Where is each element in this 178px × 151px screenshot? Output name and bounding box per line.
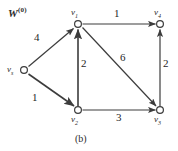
node-label-v2: v2 xyxy=(71,115,78,126)
edge-weight-v1-v3: 6 xyxy=(120,52,126,63)
node-label-v1-subscript: 1 xyxy=(75,13,78,19)
node-label-v3: v3 xyxy=(154,115,161,126)
node-label-v3-subscript: 3 xyxy=(158,120,161,126)
graph-canvas xyxy=(0,0,178,151)
node-vs xyxy=(21,67,28,74)
edge-weight-vs-v2: 1 xyxy=(32,92,38,103)
node-label-v4-subscript: 4 xyxy=(158,13,161,19)
node-v3 xyxy=(157,107,164,114)
edge-weight-v3-v4: 2 xyxy=(163,58,169,69)
node-label-v4: v4 xyxy=(154,8,161,19)
edge-weight-v1-v4: 1 xyxy=(114,8,120,19)
edge-weight-v2-v1: 2 xyxy=(81,58,87,69)
node-label-v1: v1 xyxy=(71,8,78,19)
edge-weight-v2-v3: 3 xyxy=(116,112,122,123)
node-label-vs-subscript: s xyxy=(11,70,13,76)
node-v2 xyxy=(75,107,82,114)
weighted-graph-figure: W(0) v1 v4 vs v2 v3 4 1 2 1 6 2 3 (b) xyxy=(0,0,178,151)
matrix-label-superscript: (0) xyxy=(18,6,27,14)
edge-weight-vs-v1: 4 xyxy=(34,32,40,43)
node-v1 xyxy=(75,21,82,28)
node-v4 xyxy=(157,21,164,28)
matrix-label: W(0) xyxy=(8,7,27,19)
matrix-label-base: W xyxy=(8,7,18,19)
node-label-v2-subscript: 2 xyxy=(75,120,78,126)
figure-caption: (b) xyxy=(75,134,87,144)
node-label-vs: vs xyxy=(7,65,13,76)
edge-v1-v3 xyxy=(83,28,157,107)
